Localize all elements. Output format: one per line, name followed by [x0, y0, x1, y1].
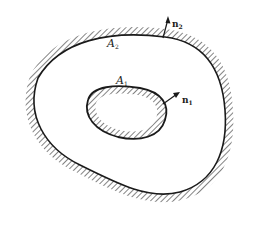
normal-n2-label: n2 [172, 19, 183, 30]
region-diagram: n2 n1 A2 A1 [0, 0, 254, 225]
inner-hatching [80, 80, 175, 145]
